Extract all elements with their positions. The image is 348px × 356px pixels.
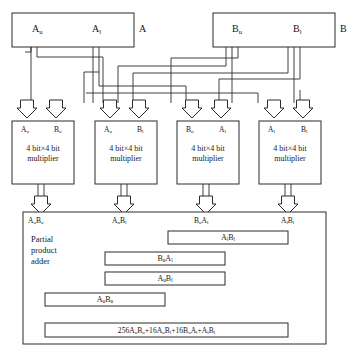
partial-product-bar-label-AuBu: AuBu bbox=[45, 296, 165, 305]
partial-product-bar-label-AuBl: AuBl bbox=[105, 275, 225, 284]
adder-input-label-3: BuAl bbox=[194, 217, 208, 226]
register-A-upper-label: Au bbox=[32, 24, 43, 35]
register-A bbox=[12, 13, 134, 47]
multiplier-2-input-left: Au bbox=[104, 126, 112, 135]
multiplier-4-input-right: Bl bbox=[301, 126, 307, 135]
register-B-upper-label: Bu bbox=[232, 24, 242, 35]
partial-product-bar-label-BuAl: BuAl bbox=[105, 255, 225, 264]
register-B-label: B bbox=[340, 24, 347, 34]
multiplier-1-text: 4 bit×4 bit multiplier bbox=[12, 144, 74, 164]
multiplier-2-input-right: Bl bbox=[137, 126, 143, 135]
multiplier-4-text: 4 bit×4 bit multiplier bbox=[259, 144, 321, 164]
register-A-lower-label: Al bbox=[92, 24, 101, 35]
adder-input-arrows bbox=[31, 196, 298, 214]
multiplier-4-input-left: Al bbox=[268, 126, 275, 135]
partial-product-bar-label-AlBl: AlBl bbox=[168, 234, 288, 243]
multiplier-1-input-left: Au bbox=[21, 126, 29, 135]
result-equation: 256AuBu+16AuBl+16BuAl+AlBl bbox=[45, 327, 288, 335]
register-B-lower-label: Bl bbox=[293, 24, 302, 35]
multiplier-3-input-left: Bu bbox=[186, 126, 193, 135]
adder-input-label-1: AuBu bbox=[28, 217, 43, 226]
multiplier-input-arrows bbox=[17, 100, 313, 118]
multiplier-3-input-right: Al bbox=[219, 126, 226, 135]
partial-product-adder-label: Partial product adder bbox=[31, 234, 57, 267]
multiplier-3-text: 4 bit×4 bit multiplier bbox=[177, 144, 239, 164]
register-A-label: A bbox=[139, 24, 146, 34]
multiplier-output-buses bbox=[38, 184, 291, 198]
multiplier-block-diagram: Au Al A Bu Bl B Au Bu 4 bit×4 bit multip… bbox=[0, 0, 348, 356]
multiplier-1-input-right: Bu bbox=[54, 126, 61, 135]
adder-input-label-2: AuBl bbox=[112, 217, 126, 226]
multiplier-2-text: 4 bit×4 bit multiplier bbox=[95, 144, 157, 164]
adder-input-label-4: AlBl bbox=[281, 217, 294, 226]
bus-routing bbox=[25, 47, 300, 103]
